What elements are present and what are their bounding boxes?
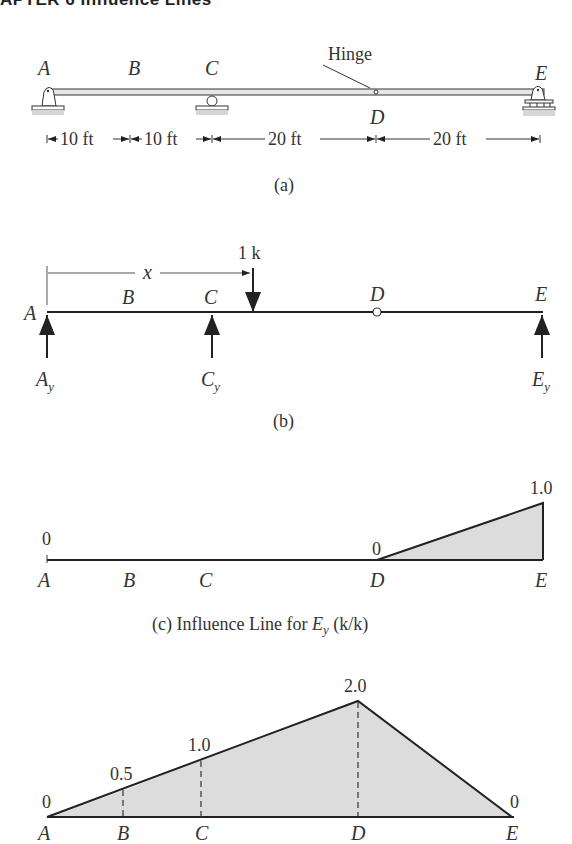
point-label-e: E xyxy=(534,283,547,305)
value-b: 0.5 xyxy=(110,764,133,784)
point-label-d: D xyxy=(369,569,385,591)
point-label-b: B xyxy=(122,286,134,308)
point-label-e: E xyxy=(505,822,518,844)
influence-area xyxy=(47,701,512,817)
value-d: 0 xyxy=(372,539,381,559)
roller-support-icon xyxy=(196,96,228,115)
figure-b-free-body: x 1 k A B C D E Ay Cy Ey (b) xyxy=(22,243,550,432)
caption-c: (c) Influence Line for Ey (k/k) xyxy=(152,614,368,637)
diagram-canvas: A B C D E Hinge xyxy=(0,0,572,844)
point-label-d: D xyxy=(369,106,385,128)
point-label-e: E xyxy=(534,569,547,591)
point-label-b: B xyxy=(117,822,129,844)
figure-d-influence-line: 0 0.5 1.0 2.0 0 A B C D E xyxy=(36,676,519,844)
value-e: 1.0 xyxy=(530,478,553,498)
point-label-c: C xyxy=(195,822,209,844)
beam xyxy=(46,89,544,95)
dim-cd: 20 ft xyxy=(268,129,302,149)
point-label-b: B xyxy=(128,57,140,79)
point-label-c: C xyxy=(204,286,218,308)
figure-a-beam: A B C D E Hinge xyxy=(32,44,555,196)
load-label: 1 k xyxy=(238,243,261,263)
point-label-d: D xyxy=(350,822,366,844)
point-label-e: E xyxy=(534,62,547,84)
value-d: 2.0 xyxy=(344,676,367,696)
point-label-a: A xyxy=(36,569,51,591)
point-label-b: B xyxy=(123,569,135,591)
value-c: 1.0 xyxy=(188,735,211,755)
value-e: 0 xyxy=(510,792,519,812)
hinge-leader-line xyxy=(323,65,370,88)
point-label-a: A xyxy=(36,822,51,844)
value-a: 0 xyxy=(42,529,51,549)
reaction-label-cy: Cy xyxy=(201,368,220,394)
point-label-d: D xyxy=(369,283,385,305)
hinge-label: Hinge xyxy=(328,44,372,64)
point-label-c: C xyxy=(199,569,213,591)
hinge-icon xyxy=(374,90,378,94)
x-label: x xyxy=(142,261,152,283)
point-label-c: C xyxy=(205,57,219,79)
dim-de: 20 ft xyxy=(433,129,467,149)
figure-c-influence-line: 0 0 1.0 A B C D E (c) Influence Line for… xyxy=(36,478,553,637)
value-a: 0 xyxy=(42,792,51,812)
point-label-a: A xyxy=(22,302,37,324)
caption-b: (b) xyxy=(273,411,294,432)
point-label-a: A xyxy=(36,57,51,79)
dim-bc: 10 ft xyxy=(144,129,178,149)
dim-ab: 10 ft xyxy=(60,129,94,149)
caption-a: (a) xyxy=(274,175,294,196)
reaction-label-ay: Ay xyxy=(34,368,54,394)
hinge-icon xyxy=(373,308,381,316)
reaction-label-ey: Ey xyxy=(531,368,550,394)
